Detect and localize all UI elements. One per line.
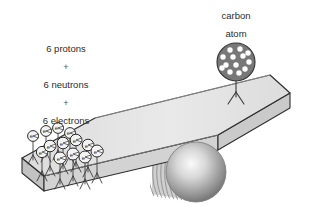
illustration-canvas: e e e e — [0, 0, 309, 219]
label-plus-1: + — [63, 62, 68, 72]
label-protons: 6 protons — [46, 43, 86, 54]
carbon-atom-head — [217, 43, 255, 81]
label-atom: atom — [225, 28, 246, 39]
fulcrum-sphere — [166, 142, 226, 202]
carbon-atom-balance-diagram: e e e e — [0, 0, 309, 219]
label-plus-2: + — [63, 98, 68, 108]
label-electrons: 6 electrons — [43, 115, 90, 126]
label-carbon: carbon — [221, 10, 250, 21]
label-neutrons: 6 neutrons — [44, 79, 89, 90]
